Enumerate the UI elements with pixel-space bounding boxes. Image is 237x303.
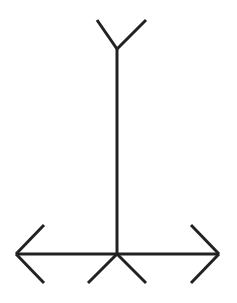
left-arrowhead-lower bbox=[16, 254, 44, 283]
illusion-figure bbox=[0, 0, 237, 303]
left-arrowhead-upper bbox=[16, 225, 44, 254]
right-arrowhead-upper bbox=[191, 225, 219, 254]
top-right-fin bbox=[117, 20, 146, 49]
bottom-right-fin bbox=[117, 254, 146, 283]
right-arrowhead-lower bbox=[191, 254, 219, 283]
bottom-left-fin bbox=[88, 254, 117, 283]
top-left-fin bbox=[97, 20, 117, 49]
